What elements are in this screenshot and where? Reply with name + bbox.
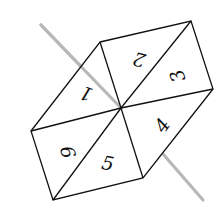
hexagon-diagram: 1 2 3 4 5 6 bbox=[0, 0, 220, 211]
fold-axis-lower bbox=[163, 154, 203, 200]
